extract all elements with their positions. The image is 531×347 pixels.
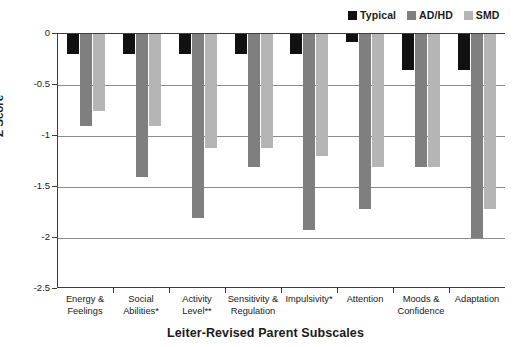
legend-item-adhd: AD/HD bbox=[407, 10, 453, 21]
bar-group-inner bbox=[179, 34, 217, 218]
bar-smd bbox=[205, 34, 217, 148]
x-axis-category-label-line: Regulation bbox=[226, 306, 280, 318]
x-axis-category-label: Moods &Confidence bbox=[393, 294, 449, 317]
bar-typical bbox=[402, 34, 414, 70]
x-axis-category-label: ActivityLevel** bbox=[169, 294, 225, 317]
bar-adhd bbox=[80, 34, 92, 126]
bar-smd bbox=[484, 34, 496, 209]
legend-swatch-icon bbox=[407, 11, 416, 20]
bar-smd bbox=[372, 34, 384, 167]
bar-typical bbox=[346, 34, 358, 42]
bar-group-inner bbox=[458, 34, 496, 238]
x-axis-category-label: Attention bbox=[337, 294, 393, 317]
bar-smd bbox=[93, 34, 105, 111]
x-axis-category-label-line: Sensitivity & bbox=[226, 294, 280, 306]
bar-group-inner bbox=[346, 34, 384, 209]
bar-adhd bbox=[359, 34, 371, 209]
x-axis-category-label: SocialAbilities* bbox=[113, 294, 169, 317]
y-axis-title: Z Score bbox=[0, 95, 5, 137]
x-axis-category-label: Impulsivity* bbox=[281, 294, 337, 317]
bar-smd bbox=[261, 34, 273, 148]
bar-smd bbox=[149, 34, 161, 126]
x-axis-category-label-line: Level** bbox=[170, 306, 224, 318]
bar-chart: TypicalAD/HDSMD Z Score 0-0.5-1-1.5-2-2.… bbox=[0, 0, 531, 347]
y-axis-tick-label: -2.5 bbox=[34, 283, 50, 293]
bar-adhd bbox=[303, 34, 315, 230]
bar-group-inner bbox=[235, 34, 273, 167]
y-axis-tick-label: -0.5 bbox=[34, 79, 50, 89]
bar-group bbox=[337, 34, 393, 287]
x-axis-tick bbox=[113, 288, 114, 293]
x-axis-category-label-line: Attention bbox=[338, 294, 392, 306]
plot-area bbox=[57, 33, 505, 288]
x-axis-category-label: Sensitivity &Regulation bbox=[225, 294, 281, 317]
x-axis-tick bbox=[449, 288, 450, 293]
x-axis-category-label-line: Energy & bbox=[58, 294, 112, 306]
bar-smd bbox=[428, 34, 440, 167]
legend-label: AD/HD bbox=[419, 10, 453, 21]
x-axis-tick bbox=[337, 288, 338, 293]
bar-adhd bbox=[136, 34, 148, 177]
x-axis-category-label-line: Impulsivity* bbox=[282, 294, 336, 306]
bar-group bbox=[393, 34, 449, 287]
bar-group bbox=[58, 34, 114, 287]
x-axis-category-label-line: Moods & bbox=[394, 294, 448, 306]
bar-typical bbox=[458, 34, 470, 70]
legend-label: Typical bbox=[360, 10, 396, 21]
bar-group bbox=[226, 34, 282, 287]
legend-item-smd: SMD bbox=[464, 10, 500, 21]
bar-group bbox=[449, 34, 505, 287]
x-axis-category-label-line: Confidence bbox=[394, 306, 448, 318]
bar-group-inner bbox=[67, 34, 105, 126]
x-axis-category-label-line: Social bbox=[114, 294, 168, 306]
bar-typical bbox=[179, 34, 191, 54]
x-axis-category-label-line: Adaptation bbox=[450, 294, 504, 306]
x-axis-tick bbox=[169, 288, 170, 293]
x-axis-tick bbox=[393, 288, 394, 293]
bar-group bbox=[114, 34, 170, 287]
y-axis-tick-label: 0 bbox=[45, 28, 50, 38]
bar-group-inner bbox=[290, 34, 328, 230]
x-axis-category-label: Adaptation bbox=[449, 294, 505, 317]
legend-item-typical: Typical bbox=[348, 10, 396, 21]
x-axis-category-labels: Energy &FeelingsSocialAbilities*Activity… bbox=[57, 294, 505, 317]
x-axis-category-label-line: Activity bbox=[170, 294, 224, 306]
bar-typical bbox=[290, 34, 302, 54]
bar-smd bbox=[316, 34, 328, 156]
legend-swatch-icon bbox=[464, 11, 473, 20]
bar-typical bbox=[235, 34, 247, 54]
legend-swatch-icon bbox=[348, 11, 357, 20]
y-axis-tick-label: -2 bbox=[42, 232, 50, 242]
x-axis-title: Leiter-Revised Parent Subscales bbox=[0, 326, 531, 340]
bar-adhd bbox=[415, 34, 427, 167]
bar-groups bbox=[58, 34, 505, 287]
y-axis-tick-label: -1.5 bbox=[34, 181, 50, 191]
x-axis-category-label-line: Feelings bbox=[58, 306, 112, 318]
bar-adhd bbox=[192, 34, 204, 218]
bar-group-inner bbox=[402, 34, 440, 167]
bar-group-inner bbox=[123, 34, 161, 177]
x-axis-category-label: Energy &Feelings bbox=[57, 294, 113, 317]
bar-group bbox=[282, 34, 338, 287]
legend-label: SMD bbox=[476, 10, 500, 21]
bar-adhd bbox=[248, 34, 260, 167]
x-axis-tick bbox=[281, 288, 282, 293]
x-axis-tick bbox=[225, 288, 226, 293]
y-axis-tick-label: -1 bbox=[42, 130, 50, 140]
bar-adhd bbox=[471, 34, 483, 238]
chart-legend: TypicalAD/HDSMD bbox=[348, 10, 500, 21]
bar-typical bbox=[67, 34, 79, 54]
bar-group bbox=[170, 34, 226, 287]
bar-typical bbox=[123, 34, 135, 54]
x-axis-category-label-line: Abilities* bbox=[114, 306, 168, 318]
